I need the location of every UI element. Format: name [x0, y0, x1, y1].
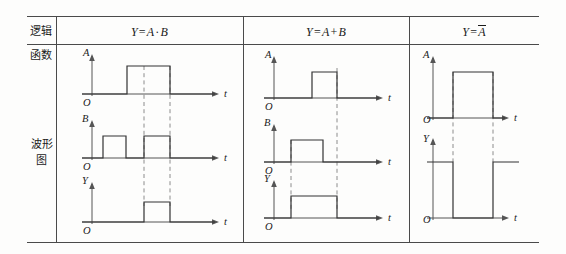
column-header-and: Y=A·B [56, 20, 243, 44]
not-waveform-y [427, 162, 519, 218]
not-a-label: A [422, 49, 430, 60]
or-b-time-label: t [388, 156, 392, 167]
and-header-b: B [161, 25, 169, 39]
column-header-not: Y=A [409, 20, 539, 44]
not-signal-a-group: A O t [422, 49, 518, 125]
waveform-chart-and: A O t B O t Y [56, 44, 243, 242]
and-waveform-a [82, 66, 215, 94]
and-b-label: B [82, 113, 89, 124]
not-y-time-arrow [502, 215, 509, 221]
not-y-label: Y [423, 133, 430, 144]
and-a-label: A [82, 47, 90, 58]
and-signal-a-group: A O t [82, 47, 228, 108]
not-waveform-a [427, 72, 505, 118]
and-y-origin: O [83, 225, 91, 236]
or-signal-y-group: Y O t [264, 173, 392, 232]
and-y-axis-arrow [89, 182, 95, 189]
not-header-eq: = [469, 25, 478, 39]
not-a-time-label: t [514, 112, 518, 123]
or-b-axis-arrow [271, 124, 277, 131]
not-y-axis-arrow [430, 138, 436, 145]
not-signal-y-group: Y O t [423, 133, 519, 225]
row-header-logic-function: 逻辑函数 [27, 20, 56, 44]
or-y-origin: O [265, 221, 273, 232]
and-a-axis-arrow [89, 54, 95, 61]
or-waveform-b [264, 140, 379, 162]
or-b-label: B [264, 117, 271, 128]
and-a-origin: O [83, 97, 91, 108]
and-signal-b-group: B O t [82, 113, 228, 172]
not-a-axis-arrow [430, 56, 436, 63]
or-waveform-a [264, 72, 379, 98]
and-y-label: Y [82, 175, 89, 186]
or-signal-a-group: A O t [264, 49, 392, 112]
table-top-border [27, 16, 539, 17]
waveform-chart-or: A O t B O t Y [243, 44, 409, 242]
and-b-axis-arrow [89, 120, 95, 127]
or-signal-b-group: B O t [264, 117, 392, 176]
table-bottom-border [27, 242, 539, 243]
or-waveform-y [264, 196, 379, 218]
or-a-label: A [264, 49, 272, 60]
and-b-time-label: t [224, 152, 228, 163]
not-alignment-dashes [453, 72, 493, 162]
row-header-waveform: 波形图 [27, 135, 56, 167]
not-a-origin: O [423, 114, 431, 125]
and-header-eq: = [138, 25, 147, 39]
not-header-a-overline: A [478, 25, 486, 39]
not-y-time-label: t [514, 212, 518, 223]
column-header-or: Y=A+B [243, 20, 409, 44]
or-y-time-label: t [388, 212, 392, 223]
or-y-axis-arrow [271, 180, 277, 187]
or-a-time-label: t [388, 92, 392, 103]
and-a-time-label: t [224, 88, 228, 99]
and-signal-y-group: Y O t [82, 175, 228, 236]
or-a-origin: O [265, 101, 273, 112]
or-header-b: B [338, 25, 346, 39]
and-header-lhs: Y [131, 25, 138, 39]
or-header-lhs: Y [306, 25, 313, 39]
or-header-eq: = [313, 25, 322, 39]
or-a-axis-arrow [271, 56, 277, 63]
logic-waveform-table: 逻辑函数 Y=A·B Y=A+B Y=A 波形图 [0, 0, 566, 254]
and-b-origin: O [83, 161, 91, 172]
not-y-origin: O [423, 214, 431, 225]
and-y-time-label: t [224, 216, 228, 227]
waveform-chart-not: A O t Y O t [409, 44, 539, 242]
and-waveform-b [82, 136, 215, 158]
and-waveform-y [82, 202, 215, 222]
